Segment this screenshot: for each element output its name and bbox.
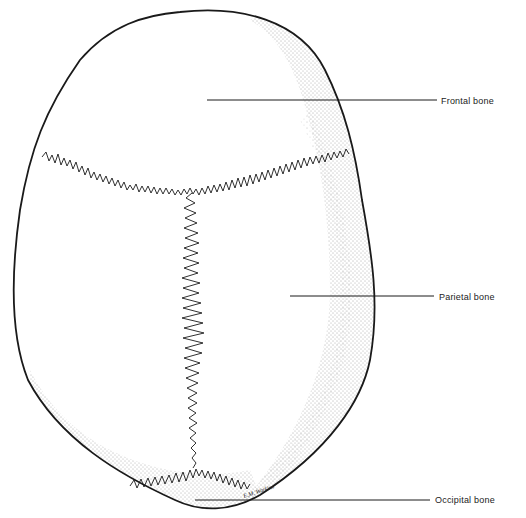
shading — [30, 15, 374, 508]
coronal-suture — [42, 149, 349, 195]
sagittal-suture — [182, 193, 204, 468]
label-frontal-bone: Frontal bone — [441, 96, 494, 106]
skull-illustration: E.M. Watkins — [0, 0, 526, 518]
skull-diagram: E.M. Watkins Frontal bone Parietal bone … — [0, 0, 526, 518]
label-occipital-bone: Occipital bone — [435, 495, 495, 505]
label-parietal-bone: Parietal bone — [439, 292, 495, 302]
